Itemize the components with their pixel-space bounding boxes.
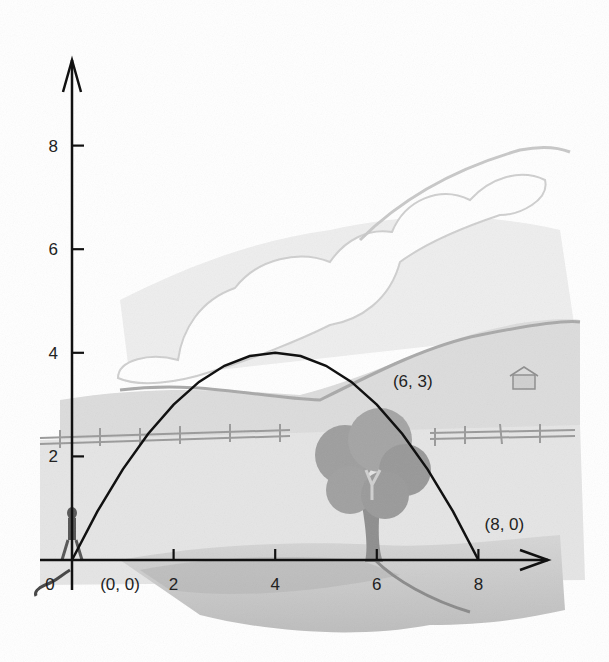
x-tick-label: 6 (372, 575, 381, 594)
background-sketch (0, 0, 609, 662)
x-tick-label: 4 (270, 575, 279, 594)
y-tick-label: 6 (49, 240, 58, 259)
point-label: (8, 0) (485, 515, 525, 534)
point-label: (0, 0) (100, 575, 140, 594)
x-tick-label: 2 (169, 575, 178, 594)
x-tick-label: 8 (474, 575, 483, 594)
y-tick-label: 8 (49, 137, 58, 156)
paper-grain (0, 0, 609, 662)
chart: 02468 2468 (0, 0)(6, 3)(8, 0) (0, 0, 609, 662)
y-tick-label: 2 (49, 447, 58, 466)
point-label: (6, 3) (393, 372, 433, 391)
y-tick-label: 4 (49, 344, 58, 363)
x-tick-label: 0 (45, 575, 54, 594)
